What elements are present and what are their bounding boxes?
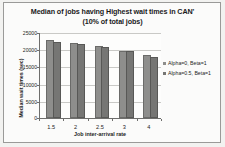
x-tick-label: 2.5 [88,124,112,130]
legend-label: Alpha=0.5, Beta=1 [168,70,211,76]
bar-alpha-0-5-beta-1-2 [77,44,85,118]
y-tick-label: 20000 [11,48,37,53]
y-axis: Median wait times (sec) 25000 20000 1500… [9,33,37,119]
y-tick-label: 0 [11,116,37,121]
bar-alpha-0-5-beta-1-4 [150,57,158,119]
x-tick-mark [63,119,64,121]
y-tick-label: 5000 [11,100,37,105]
legend-item: Alpha=0.5, Beta=1 [163,68,221,78]
chart-screenshot: Median of jobs having Highest wait times… [0,0,225,147]
x-tick-mark [161,119,162,121]
y-axis-title: Median wait times (sec) [18,50,24,126]
x-tick-label: 3 [112,124,136,130]
y-tick-label: 10000 [11,83,37,88]
x-tick-label: 4 [137,124,161,130]
legend-label: Alpha=0, Beta=1 [168,60,207,66]
x-tick-mark [112,119,113,121]
legend-swatch-icon [163,62,166,65]
chart-subtitle: (10% of total jobs) [14,17,211,27]
bar-alpha-0-5-beta-1-1.5 [53,42,61,118]
x-tick-mark [137,119,138,121]
legend-item: Alpha=0, Beta=1 [163,58,221,68]
y-tick-label: 25000 [11,31,37,36]
x-tick-label: 1.5 [39,124,63,130]
bar-alpha-0-5-beta-1-3 [126,51,134,118]
x-tick-mark [39,119,40,121]
chart-title: Median of jobs having Highest wait times… [14,7,211,26]
gridline [40,33,161,34]
bar-alpha-0-5-beta-1-2.5 [101,47,109,118]
x-axis-title: Job inter-arrival rate [39,131,161,137]
bar-chart: Median of jobs having Highest wait times… [0,0,225,147]
plot-area [39,33,161,119]
chart-legend: Alpha=0, Beta=1 Alpha=0.5, Beta=1 [163,58,221,78]
y-tick-label: 15000 [11,65,37,70]
chart-title-line1: Median of jobs having Highest wait times… [31,7,194,16]
legend-swatch-icon [163,72,166,75]
x-tick-label: 2 [64,124,88,130]
x-tick-mark [88,119,89,121]
